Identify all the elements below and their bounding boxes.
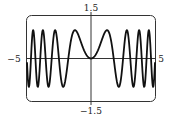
x-max-label: 5	[158, 54, 164, 64]
chart: 1.5 −1.5 −5 5	[0, 0, 170, 118]
y-max-label: 1.5	[84, 3, 99, 13]
y-min-label: −1.5	[80, 106, 102, 116]
x-min-label: −5	[7, 54, 21, 64]
